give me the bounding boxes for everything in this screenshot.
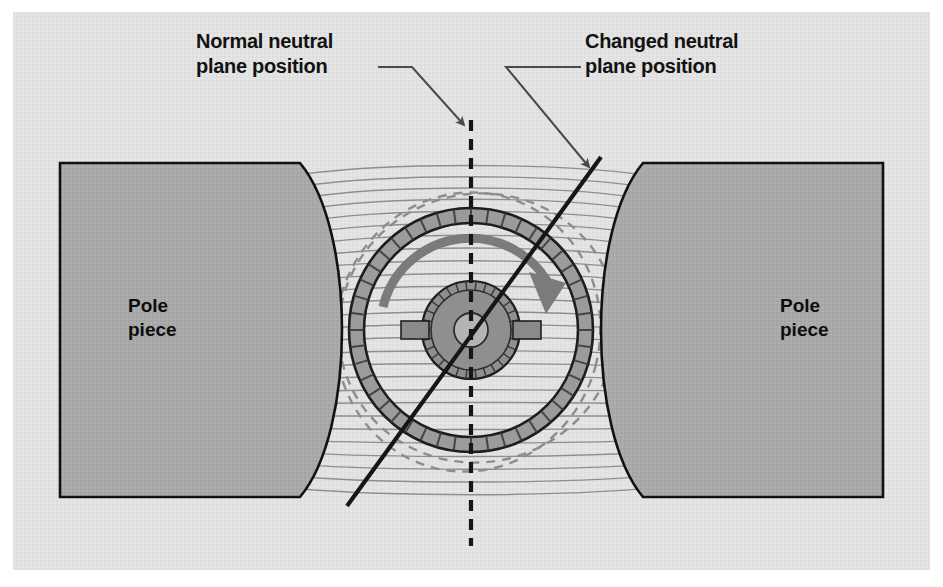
commutator-segment-divider: [475, 281, 476, 290]
label-changed-neutral-line1: Changed neutral: [585, 30, 738, 52]
label-pole-right-line2: piece: [780, 319, 829, 340]
label-changed-neutral-line2: plane position: [585, 55, 716, 77]
commutator-segment-divider: [466, 370, 467, 379]
label-pole-left-line2: piece: [128, 319, 177, 340]
pole-piece-right: [601, 163, 883, 497]
label-pole-left-line1: Pole: [128, 295, 168, 316]
diagram-root: Normal neutral plane position Changed ne…: [0, 0, 943, 587]
label-normal-neutral-line1: Normal neutral: [196, 30, 333, 52]
commutator-segment-divider: [475, 370, 476, 379]
pole-piece-left: [60, 163, 342, 497]
label-normal-neutral-line2: plane position: [196, 55, 327, 77]
commutator-segment-divider: [466, 281, 467, 290]
brush-right: [513, 321, 541, 339]
brush-left: [401, 321, 429, 339]
label-pole-right-line1: Pole: [780, 295, 820, 316]
